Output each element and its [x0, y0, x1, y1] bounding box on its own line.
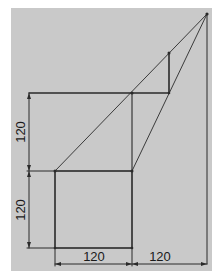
vertex-square-tr	[131, 170, 134, 173]
dimension-label-bottom-right: 120	[149, 249, 171, 264]
arrow-icon	[27, 171, 31, 177]
arrow-icon	[201, 262, 207, 266]
arrow-icon	[55, 262, 61, 266]
vertex-middle	[130, 91, 133, 94]
arrow-icon	[126, 262, 132, 266]
dimension-label-left-upper: 120	[13, 121, 28, 143]
arrow-icon	[27, 93, 31, 99]
base-square	[55, 171, 132, 248]
construction-diagram: 120 120 120 120	[0, 0, 218, 277]
vertex-peak	[205, 12, 208, 15]
dimension-label-left-lower: 120	[13, 199, 28, 221]
vertex-step-top	[168, 52, 171, 55]
dimension-label-bottom-left: 120	[83, 249, 105, 264]
arrow-icon	[27, 165, 31, 171]
arrow-icon	[27, 242, 31, 248]
vertex-square-bl	[54, 247, 57, 250]
vertex-square-tl	[54, 170, 57, 173]
arrow-icon	[132, 262, 138, 266]
vertex-step-corner	[168, 92, 171, 95]
vertex-square-br	[131, 247, 134, 250]
